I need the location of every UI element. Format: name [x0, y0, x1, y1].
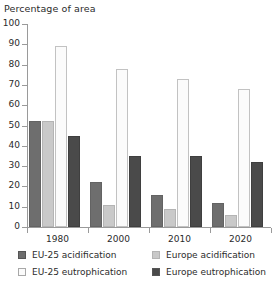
y-axis-tick [22, 166, 27, 167]
legend-swatch-europe-acidification [152, 251, 160, 259]
bar-2010-series-2 [177, 79, 189, 227]
y-axis-tick-label: 70 [0, 80, 20, 89]
y-axis-tick [22, 85, 27, 86]
legend-swatch-eu25-acidification [18, 251, 26, 259]
y-axis-tick-label: 60 [0, 100, 20, 109]
chart-legend: EU-25 acidification Europe acidification… [18, 250, 270, 284]
bar-2010-series-1 [164, 209, 176, 227]
y-axis-tick [22, 44, 27, 45]
x-axis-tick [271, 228, 272, 233]
y-axis-tick-label: 50 [0, 121, 20, 130]
bar-2000-series-1 [103, 205, 115, 227]
bar-2020-series-1 [225, 215, 237, 227]
bar-1980-series-1 [42, 121, 54, 227]
bar-chart: Percentage of area EU-25 acidification E… [0, 0, 274, 286]
bar-1980-series-0 [29, 121, 41, 227]
bar-2020-series-2 [238, 89, 250, 227]
y-axis-tick-label: 0 [0, 222, 20, 231]
x-axis-tick-label: 1980 [27, 234, 88, 245]
x-axis-tick [210, 228, 211, 233]
y-axis-tick-label: 20 [0, 181, 20, 190]
x-axis-tick [149, 228, 150, 233]
legend-swatch-europe-eutrophication [152, 268, 160, 276]
bar-2010-series-3 [190, 156, 202, 227]
bar-2020-series-3 [251, 162, 263, 227]
legend-label-eu25-eutrophication: EU-25 eutrophication [32, 267, 127, 277]
bar-1980-series-2 [55, 46, 67, 227]
y-axis-tick [22, 207, 27, 208]
legend-item-europe-acidification[interactable]: Europe acidification [152, 250, 255, 260]
legend-label-europe-acidification: Europe acidification [166, 250, 255, 260]
legend-item-europe-eutrophication[interactable]: Europe eutrophication [152, 267, 266, 277]
bar-2000-series-3 [129, 156, 141, 227]
chart-axis-title: Percentage of area [4, 3, 96, 14]
y-axis-tick [22, 146, 27, 147]
y-axis-tick [22, 24, 27, 25]
legend-item-eu25-eutrophication[interactable]: EU-25 eutrophication [18, 267, 127, 277]
y-axis-tick [22, 105, 27, 106]
legend-swatch-eu25-eutrophication [18, 268, 26, 276]
x-axis-tick [27, 228, 28, 233]
y-axis-tick-label: 30 [0, 161, 20, 170]
y-axis-tick-label: 40 [0, 141, 20, 150]
y-axis-tick [22, 65, 27, 66]
y-axis-tick [22, 126, 27, 127]
y-axis-tick-label: 100 [0, 19, 20, 28]
y-axis-tick-label: 80 [0, 60, 20, 69]
y-axis-tick-label: 90 [0, 39, 20, 48]
legend-label-eu25-acidification: EU-25 acidification [32, 250, 116, 260]
x-axis-tick [88, 228, 89, 233]
y-axis-tick [22, 186, 27, 187]
legend-item-eu25-acidification[interactable]: EU-25 acidification [18, 250, 116, 260]
bar-1980-series-3 [68, 136, 80, 227]
bar-2010-series-0 [151, 195, 163, 227]
plot-area [27, 24, 271, 227]
y-axis-tick-label: 10 [0, 202, 20, 211]
bar-2000-series-2 [116, 69, 128, 227]
bar-2000-series-0 [90, 182, 102, 227]
x-axis-tick-label: 2000 [88, 234, 149, 245]
x-axis-tick-label: 2010 [149, 234, 210, 245]
legend-label-europe-eutrophication: Europe eutrophication [166, 267, 266, 277]
x-axis-tick-label: 2020 [210, 234, 271, 245]
bar-2020-series-0 [212, 203, 224, 227]
